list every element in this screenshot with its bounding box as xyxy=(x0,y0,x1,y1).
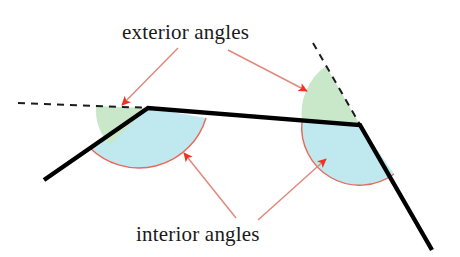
interior-angles-label: interior angles xyxy=(136,222,260,247)
interior-angle-right-fill xyxy=(302,121,394,185)
arrow-interior-right xyxy=(258,159,326,220)
exterior-angles-label: exterior angles xyxy=(122,20,249,45)
exterior-angle-right-fill xyxy=(301,66,360,125)
diagram-canvas: exterior angles interior angles xyxy=(0,0,460,257)
arrow-exterior-left xyxy=(122,48,178,105)
dashed-extension-left xyxy=(18,103,152,108)
arrow-interior-left xyxy=(184,153,236,218)
arrow-exterior-right xyxy=(228,50,307,91)
